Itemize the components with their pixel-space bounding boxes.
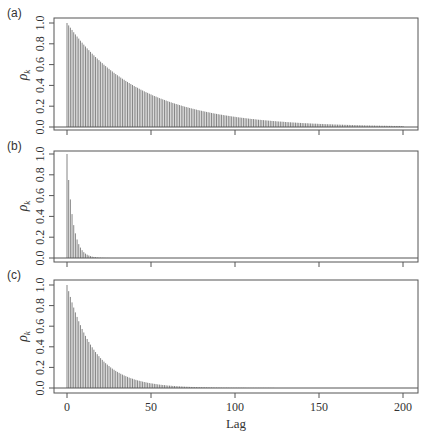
- y-axis-label: ρk: [15, 330, 32, 343]
- x-tick-label: 50: [145, 400, 157, 414]
- y-tick-label: 0.6: [33, 188, 47, 203]
- y-tick-label: 0.6: [33, 319, 47, 334]
- y-tick-label: 0.6: [33, 57, 47, 72]
- x-axis-label: Lag: [226, 416, 247, 431]
- y-tick-label: 1.0: [33, 278, 47, 293]
- x-tick-label: 150: [310, 400, 328, 414]
- x-tick-label: 0: [64, 400, 70, 414]
- y-tick-label: 0.0: [33, 251, 47, 266]
- y-tick-label: 0.4: [33, 78, 47, 93]
- y-tick-label: 0.2: [33, 360, 47, 375]
- y-tick-label: 0.2: [33, 99, 47, 114]
- acf-bars: [67, 23, 403, 127]
- y-tick-label: 0.4: [33, 209, 47, 224]
- y-tick-label: 0.8: [33, 36, 47, 51]
- y-axis-label: ρk: [15, 200, 32, 213]
- panel-a: 0.00.20.40.60.81.0ρk(a): [7, 6, 418, 135]
- y-axis-label: ρk: [15, 69, 32, 82]
- y-tick-label: 0.0: [33, 120, 47, 135]
- y-tick-label: 0.8: [33, 298, 47, 313]
- x-tick-label: 100: [226, 400, 244, 414]
- y-tick-label: 0.4: [33, 339, 47, 354]
- acf-chart-svg: 0.00.20.40.60.81.0ρk(a)0.00.20.40.60.81.…: [0, 0, 431, 438]
- y-tick-label: 1.0: [33, 147, 47, 162]
- panel-b: 0.00.20.40.60.81.0ρk(b): [7, 139, 418, 267]
- panel-label: (a): [7, 6, 22, 20]
- y-tick-label: 0.2: [33, 230, 47, 245]
- acf-figure: 0.00.20.40.60.81.0ρk(a)0.00.20.40.60.81.…: [0, 0, 431, 438]
- y-tick-label: 0.0: [33, 381, 47, 396]
- acf-bars: [67, 285, 274, 388]
- y-tick-label: 1.0: [33, 16, 47, 31]
- panel-label: (b): [7, 139, 22, 153]
- panels-group: 0.00.20.40.60.81.0ρk(a)0.00.20.40.60.81.…: [7, 6, 418, 414]
- acf-bars: [67, 154, 109, 258]
- panel-c: 0.00.20.40.60.81.0ρk(c)050100150200: [7, 268, 418, 414]
- panel-label: (c): [7, 268, 21, 282]
- y-tick-label: 0.8: [33, 167, 47, 182]
- plot-frame: [54, 151, 418, 262]
- x-tick-label: 200: [394, 400, 412, 414]
